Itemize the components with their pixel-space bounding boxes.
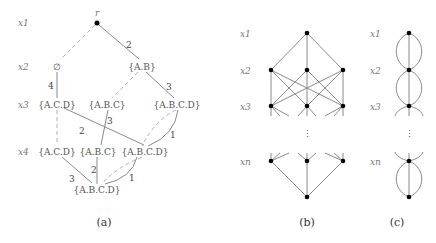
node-x4-abc: {A.B.C} xyxy=(79,147,116,157)
weight-ab-abcd: 3 xyxy=(166,82,172,92)
panel-a: x1 x2 x3 x4 r ∅ {A.B} {A.C.D} {A.B.C} {A… xyxy=(18,8,200,229)
ellipsis-b: ⋮ xyxy=(303,129,312,139)
edge-acd-terminal xyxy=(62,157,92,183)
root-node xyxy=(95,21,100,26)
weight-abc-terminal: 2 xyxy=(91,165,97,175)
caption-b: (b) xyxy=(299,216,315,229)
ellipsis-c: ⋮ xyxy=(405,129,414,139)
node-empty: ∅ xyxy=(53,62,61,72)
node-terminal: {A.B.C.D} xyxy=(74,185,121,195)
panel-c: x1 x2 x3 xn ⋮ (c) xyxy=(370,29,423,229)
row-label-x1: x1 xyxy=(240,29,251,39)
edge-acd-abcd xyxy=(64,108,144,145)
row-label-x4: x4 xyxy=(18,147,29,157)
root-label: r xyxy=(95,8,100,18)
diagram-canvas: x1 x2 x3 x4 r ∅ {A.B} {A.C.D} {A.B.C} {A… xyxy=(0,0,436,243)
weight-abc-abc: 3 xyxy=(107,116,113,126)
node-x4-acd: {A.C.D} xyxy=(38,147,75,157)
row-label-x2: x2 xyxy=(370,66,381,76)
panel-b: x1 x2 x3 xn xyxy=(240,29,345,229)
row-label-xn: xn xyxy=(240,157,251,167)
row-label-x3: x3 xyxy=(370,102,381,112)
edge-abcd-abcd-solid xyxy=(148,110,178,146)
node-x3-acd: {A.C.D} xyxy=(38,100,75,110)
edge-ab-abc xyxy=(112,72,138,98)
weight-empty-acd: 4 xyxy=(48,81,54,91)
row-label-x2: x2 xyxy=(18,62,29,72)
row-label-x3: x3 xyxy=(18,100,29,110)
weight-abcd-abcd: 1 xyxy=(170,130,176,140)
node-x4-abcd: {A.B.C.D} xyxy=(122,147,169,157)
node-x3-abcd: {A.B.C.D} xyxy=(154,100,201,110)
row-label-x3: x3 xyxy=(240,102,251,112)
edge-r-ab xyxy=(99,25,139,59)
weight-r-ab: 2 xyxy=(126,40,132,50)
weight-abcd-terminal: 1 xyxy=(129,173,135,183)
node-x3-abc: {A.B.C} xyxy=(88,100,125,110)
weight-acd-terminal: 3 xyxy=(69,174,75,184)
weight-acd-abcd: 2 xyxy=(79,126,85,136)
row-label-x1: x1 xyxy=(370,29,381,39)
row-label-x2: x2 xyxy=(240,66,251,76)
row-label-xn: xn xyxy=(370,157,381,167)
node-ab: {A.B} xyxy=(128,62,155,72)
row-label-x1: x1 xyxy=(18,18,29,28)
caption-c: (c) xyxy=(390,216,405,229)
caption-a: (a) xyxy=(96,216,111,229)
edge-r-empty xyxy=(60,25,95,60)
